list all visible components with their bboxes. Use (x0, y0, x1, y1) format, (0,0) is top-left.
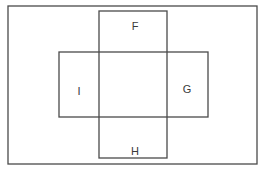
label-f: F (132, 20, 139, 32)
label-i: I (77, 85, 80, 97)
label-g: G (183, 83, 192, 95)
vertical-rectangle (99, 11, 167, 158)
label-h: H (131, 145, 139, 157)
diagram-svg: F I G H (0, 0, 262, 170)
diagram-canvas: F I G H (0, 0, 262, 170)
